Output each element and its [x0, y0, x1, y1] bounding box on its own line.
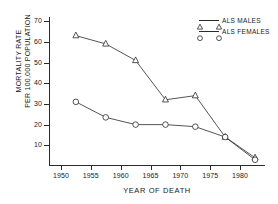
legend-label: ALS MALES — [222, 17, 261, 24]
data-point — [193, 124, 199, 130]
data-point — [252, 157, 258, 163]
series-layer — [49, 17, 264, 167]
data-point — [103, 115, 109, 121]
data-point — [192, 92, 198, 98]
plot-area — [49, 17, 264, 165]
data-point — [73, 99, 79, 105]
circle-marker-icon — [215, 28, 223, 46]
legend: ALS MALESALS FEMALES — [196, 15, 278, 37]
y-axis-title-line-2: PER 100,000 POPULATION — [23, 0, 32, 136]
data-point — [133, 122, 139, 128]
legend-symbol — [196, 27, 222, 37]
circle-marker-icon — [196, 28, 204, 46]
series-line-als-females — [76, 102, 255, 160]
chart-figure: 10203040506070 1950195519601965197019751… — [0, 0, 278, 204]
x-axis-title: YEAR OF DEATH — [49, 186, 265, 195]
legend-label: ALS FEMALES — [222, 28, 270, 35]
y-axis-title: MORTALITY RATE PER 100,000 POPULATION — [14, 0, 32, 136]
data-point — [222, 134, 228, 140]
legend-item-als-females: ALS FEMALES — [196, 26, 278, 37]
legend-symbol — [196, 16, 222, 26]
x-tick-label-1980: 1980 — [220, 172, 260, 179]
data-point — [73, 32, 79, 38]
data-point — [163, 122, 169, 128]
legend-item-als-males: ALS MALES — [196, 15, 278, 26]
data-point — [133, 57, 139, 63]
y-axis-title-line-1: MORTALITY RATE — [14, 0, 23, 136]
y-tick-label-10: 10 — [0, 141, 42, 148]
